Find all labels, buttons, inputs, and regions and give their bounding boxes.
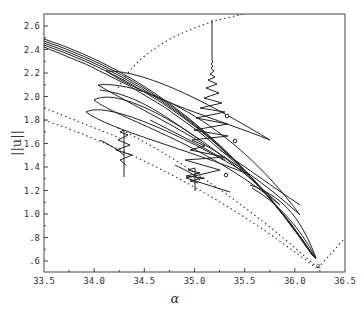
cusp-marker: α (316, 262, 321, 270)
svg-text:36.0: 36.0 (284, 276, 306, 286)
x-tick-labels: 33.5 34.0 34.5 35.0 35.5 36.0 36.5 (33, 276, 356, 286)
svg-text:34.5: 34.5 (133, 276, 155, 286)
x-axis-label: α (171, 291, 180, 306)
svg-text:1.4: 1.4 (24, 162, 40, 172)
svg-text:2.6: 2.6 (24, 21, 40, 31)
svg-text:35.5: 35.5 (234, 276, 256, 286)
svg-text:36.5: 36.5 (334, 276, 356, 286)
oscillating-branch (185, 20, 237, 192)
bifurcation-chart: 2.6 2.4 2.2 2.0 1.8 1.6 1.4 1.2 1.0 .8 .… (0, 0, 364, 312)
svg-text:1.6: 1.6 (24, 139, 40, 149)
svg-text:35.0: 35.0 (184, 276, 206, 286)
svg-text:1.0: 1.0 (24, 209, 40, 219)
svg-text:.6: .6 (29, 256, 40, 266)
svg-text:2.0: 2.0 (24, 92, 40, 102)
solid-branches (44, 39, 316, 259)
svg-text:.8: .8 (29, 233, 40, 243)
y-axis (44, 26, 48, 261)
svg-text:2.2: 2.2 (24, 68, 40, 78)
oscillation-left (100, 130, 132, 177)
svg-text:1.8: 1.8 (24, 115, 40, 125)
svg-text:2.4: 2.4 (24, 45, 40, 55)
svg-text:34.0: 34.0 (83, 276, 105, 286)
svg-text:33.5: 33.5 (33, 276, 55, 286)
x-axis (69, 268, 320, 272)
y-axis-label: ||u|| (9, 130, 24, 156)
y-tick-labels: 2.6 2.4 2.2 2.0 1.8 1.6 1.4 1.2 1.0 .8 .… (24, 21, 40, 266)
svg-text:1.2: 1.2 (24, 186, 40, 196)
